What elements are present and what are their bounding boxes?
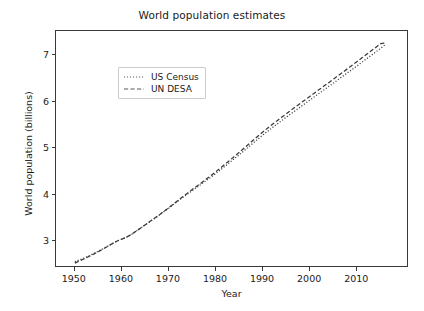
x-tick-label: 1970 <box>156 273 180 284</box>
y-tick-mark <box>52 54 56 55</box>
y-tick-mark <box>52 194 56 195</box>
x-tick-mark <box>262 267 263 271</box>
legend-item-us-census: US Census <box>123 71 199 83</box>
y-tick-label: 3 <box>43 235 49 246</box>
x-tick-mark <box>74 267 75 271</box>
x-tick-label: 1990 <box>250 273 274 284</box>
y-tick-mark <box>52 101 56 102</box>
x-tick-label: 2010 <box>344 273 368 284</box>
chart-title: World population estimates <box>0 9 424 21</box>
x-tick-mark <box>121 267 122 271</box>
chart-figure: World population estimates US Census <box>0 0 424 311</box>
legend-line-dashed-icon <box>123 84 145 94</box>
x-tick-mark <box>168 267 169 271</box>
y-tick-mark <box>52 147 56 148</box>
x-tick-label: 1980 <box>203 273 227 284</box>
x-tick-mark <box>356 267 357 271</box>
y-tick-label: 5 <box>43 142 49 153</box>
x-tick-label: 1960 <box>109 273 133 284</box>
x-tick-label: 1950 <box>62 273 86 284</box>
plot-area <box>56 31 407 266</box>
legend-line-dotted-icon <box>123 72 145 82</box>
y-tick-label: 4 <box>43 188 49 199</box>
y-axis-label: World population (billions) <box>23 74 34 234</box>
chart-legend: US Census UN DESA <box>118 67 206 99</box>
y-tick-label: 6 <box>43 95 49 106</box>
legend-label: US Census <box>151 72 199 82</box>
x-tick-label: 2000 <box>297 273 321 284</box>
x-tick-mark <box>309 267 310 271</box>
x-axis-label: Year <box>55 288 408 299</box>
y-tick-label: 7 <box>43 49 49 60</box>
y-tick-mark <box>52 240 56 241</box>
legend-item-un-desa: UN DESA <box>123 83 199 95</box>
x-tick-mark <box>215 267 216 271</box>
legend-label: UN DESA <box>151 84 192 94</box>
series-lines <box>56 31 407 266</box>
plot-frame: US Census UN DESA <box>55 30 408 267</box>
